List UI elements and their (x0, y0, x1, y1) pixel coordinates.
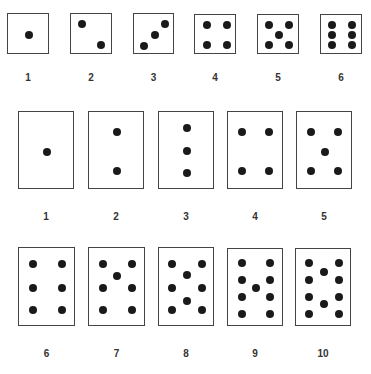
square-dice-row-card-6 (320, 14, 362, 54)
dot-icon (203, 41, 211, 49)
dot-icon (348, 21, 356, 29)
dot-icon (58, 306, 66, 314)
dot-icon (198, 260, 206, 268)
dot-icon (305, 293, 313, 301)
dot-icon (265, 128, 273, 136)
dot-icon (305, 310, 313, 318)
dot-icon (335, 310, 343, 318)
dot-icon (275, 31, 283, 39)
dot-icon (238, 293, 246, 301)
dot-icon (203, 21, 211, 29)
dot-icon (25, 31, 33, 39)
card-number-label: 10 (317, 348, 328, 359)
dot-icon (252, 284, 260, 292)
dot-icon (335, 259, 343, 267)
card-number-label: 3 (151, 72, 157, 83)
dot-icon (335, 276, 343, 284)
card-number-label: 6 (44, 348, 50, 359)
dot-icon (265, 41, 273, 49)
dot-icon (58, 260, 66, 268)
dot-icon (334, 167, 342, 175)
dot-icon (97, 41, 105, 49)
dot-icon (198, 284, 206, 292)
square-dice-row-card-3 (133, 13, 174, 54)
dot-icon (266, 259, 274, 267)
dot-icon (78, 20, 86, 28)
tall-card-row-2-card-8 (158, 247, 214, 326)
tall-card-row-1-card-4 (227, 111, 283, 189)
dot-icon (99, 306, 107, 314)
dot-icon (29, 306, 37, 314)
card-number-label: 4 (212, 72, 218, 83)
dot-icon (307, 128, 315, 136)
card-number-label: 1 (25, 72, 31, 83)
dot-icon (168, 260, 176, 268)
dot-icon (183, 124, 191, 132)
dot-icon (238, 276, 246, 284)
card-number-label: 9 (252, 348, 258, 359)
dot-icon (29, 284, 37, 292)
square-dice-row-card-5 (257, 14, 299, 54)
dot-icon (183, 169, 191, 177)
dot-icon (266, 276, 274, 284)
dot-icon (168, 284, 176, 292)
dot-icon (58, 284, 66, 292)
dot-icon (348, 31, 356, 39)
tall-card-row-2-card-9 (227, 248, 283, 326)
dot-icon (328, 31, 336, 39)
dot-icon (29, 260, 37, 268)
tall-card-row-1-card-5 (296, 111, 352, 189)
tall-card-row-2-card-6 (18, 247, 75, 326)
dot-icon (321, 148, 329, 156)
dot-icon (328, 21, 336, 29)
card-number-label: 3 (183, 211, 189, 222)
dot-icon (198, 306, 206, 314)
dot-icon (238, 310, 246, 318)
dot-icon (285, 21, 293, 29)
card-number-label: 7 (114, 348, 120, 359)
tall-card-row-2-card-7 (88, 247, 145, 326)
dot-icon (113, 167, 121, 175)
dot-icon (151, 31, 159, 39)
dot-icon (128, 260, 136, 268)
tall-card-row-1-card-1 (18, 111, 74, 189)
dot-icon (238, 259, 246, 267)
card-number-label: 5 (321, 211, 327, 222)
dot-icon (320, 300, 328, 308)
dot-icon (328, 41, 336, 49)
dot-icon (183, 271, 191, 279)
dot-icon (140, 42, 148, 50)
dot-icon (266, 293, 274, 301)
dot-icon (238, 167, 246, 175)
square-dice-row-card-2 (70, 13, 112, 54)
card-number-label: 4 (252, 211, 258, 222)
square-dice-row-card-4 (194, 14, 236, 54)
dot-icon (223, 41, 231, 49)
dot-icon (305, 259, 313, 267)
card-number-label: 2 (113, 211, 119, 222)
tall-card-row-2-card-10 (295, 248, 351, 326)
card-number-label: 8 (183, 348, 189, 359)
dot-icon (265, 21, 273, 29)
dot-icon (334, 128, 342, 136)
dot-icon (265, 167, 273, 175)
tall-card-row-1-card-2 (88, 111, 144, 189)
tall-card-row-1-card-3 (158, 111, 214, 189)
dot-icon (285, 41, 293, 49)
dot-icon (99, 284, 107, 292)
dot-icon (320, 268, 328, 276)
dot-icon (183, 147, 191, 155)
dot-icon (168, 306, 176, 314)
card-number-label: 6 (338, 72, 344, 83)
dot-icon (305, 276, 313, 284)
square-dice-row-card-1 (7, 13, 49, 54)
dot-icon (161, 20, 169, 28)
dot-icon (335, 293, 343, 301)
dot-icon (113, 128, 121, 136)
dot-icon (183, 297, 191, 305)
dot-icon (43, 148, 51, 156)
card-number-label: 5 (275, 72, 281, 83)
dot-icon (223, 21, 231, 29)
dot-icon (238, 128, 246, 136)
dot-icon (348, 41, 356, 49)
